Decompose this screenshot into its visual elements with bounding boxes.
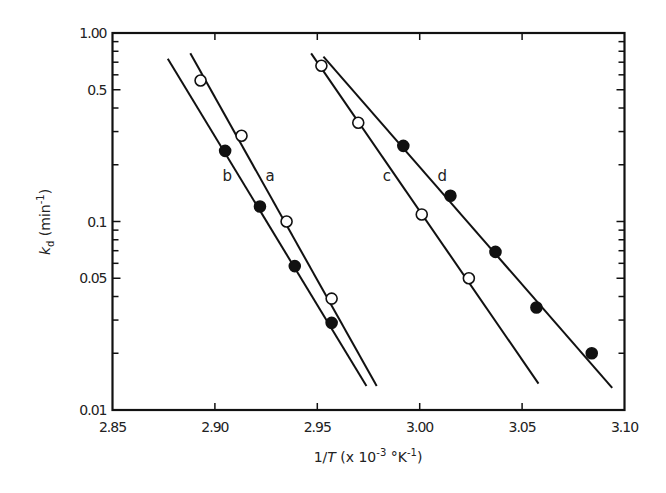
plot-border (113, 33, 625, 410)
data-point-b (289, 261, 300, 272)
series-label-c: c (383, 167, 391, 185)
data-point-a (195, 75, 206, 86)
y-tick-label: 0.01 (79, 402, 106, 418)
x-axis-title: 1/T (x 10-3 °K-1) (314, 447, 423, 465)
fit-line-b (168, 59, 367, 386)
series-label-b: b (222, 167, 232, 185)
y-tick-label: 1.00 (79, 25, 106, 41)
data-point-b (254, 201, 265, 212)
data-point-a (326, 293, 337, 304)
data-point-b (220, 145, 231, 156)
data-point-d (398, 140, 409, 151)
data-point-a (281, 216, 292, 227)
data-point-d (586, 348, 597, 359)
y-tick-label: 0.1 (87, 214, 106, 230)
data-point-d (531, 302, 542, 313)
x-tick-label: 2.85 (99, 419, 126, 435)
x-tick-label: 3.10 (611, 419, 638, 435)
x-tick-label: 3.00 (406, 419, 433, 435)
y-tick-label: 0.05 (79, 270, 106, 286)
fit-line-d (323, 57, 612, 388)
data-point-b (326, 317, 337, 328)
fit-lines (168, 53, 612, 388)
data-markers (195, 60, 597, 358)
data-point-d (490, 246, 501, 257)
data-point-c (463, 273, 474, 284)
x-tick-label: 2.90 (201, 419, 228, 435)
data-point-c (353, 117, 364, 128)
plot-frame (113, 33, 625, 410)
axis-ticks (113, 33, 625, 410)
series-label-a: a (266, 167, 275, 185)
x-tick-label: 2.95 (304, 419, 331, 435)
series-label-d: d (437, 167, 447, 185)
y-tick-label: 0.5 (87, 82, 106, 98)
data-point-d (445, 190, 456, 201)
data-point-a (236, 130, 247, 141)
chart-canvas: 2.852.902.953.003.053.101.000.50.10.050.… (0, 0, 666, 493)
data-point-c (416, 209, 427, 220)
x-tick-label: 3.05 (509, 419, 536, 435)
y-axis-title: kd (min-1) (35, 189, 56, 255)
data-point-c (316, 60, 327, 71)
